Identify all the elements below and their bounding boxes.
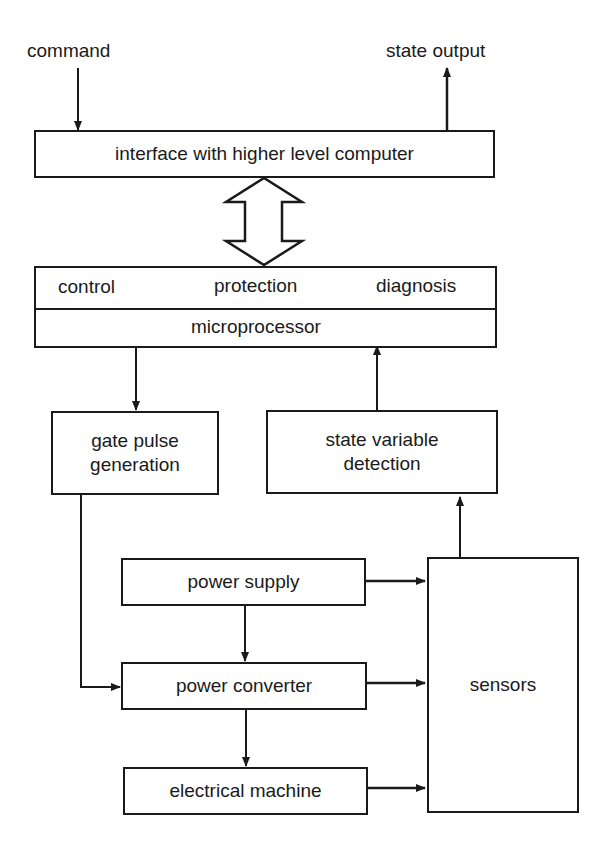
- microprocessor-block: control protection diagnosis microproces…: [34, 266, 497, 348]
- diagnosis-label: diagnosis: [376, 275, 456, 297]
- command-label: command: [27, 40, 110, 62]
- state-variable-label-2: detection: [325, 452, 438, 476]
- power-supply-label: power supply: [188, 571, 300, 593]
- microprocessor-label: microprocessor: [191, 316, 321, 338]
- interface-label: interface with higher level computer: [115, 143, 414, 165]
- state-variable-label-1: state variable: [325, 428, 438, 452]
- electrical-machine-block: electrical machine: [123, 767, 368, 815]
- control-label: control: [58, 276, 115, 298]
- state-output-label: state output: [386, 40, 485, 62]
- gate-pulse-generation-block: gate pulse generation: [51, 411, 219, 495]
- power-converter-label: power converter: [176, 675, 312, 697]
- microprocessor-divider: [36, 308, 495, 310]
- electrical-machine-label: electrical machine: [169, 780, 321, 802]
- gate-to-converter-arrow: [81, 494, 120, 687]
- state-variable-detection-block: state variable detection: [266, 410, 498, 494]
- gate-pulse-label-1: gate pulse: [90, 429, 180, 453]
- gate-pulse-label-2: generation: [90, 453, 180, 477]
- sensors-block: sensors: [427, 557, 579, 813]
- power-converter-block: power converter: [121, 662, 367, 710]
- power-supply-block: power supply: [121, 558, 366, 606]
- sensors-label: sensors: [470, 674, 537, 696]
- interface-block: interface with higher level computer: [34, 130, 495, 178]
- protection-label: protection: [214, 275, 297, 297]
- bidirectional-bus-arrow: [226, 178, 302, 265]
